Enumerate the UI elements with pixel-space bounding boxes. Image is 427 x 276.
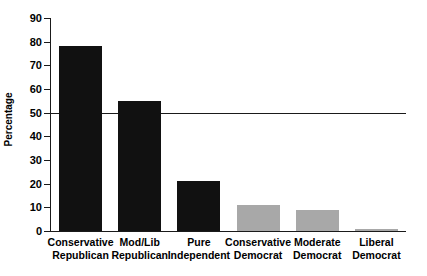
x-axis-category-label-line: Democrat [339,249,414,262]
plot-area [51,18,406,231]
y-axis-tick-label: 50 [30,107,42,118]
y-axis-tick-label: 20 [30,178,42,189]
y-axis-tick-label: 0 [36,226,42,237]
y-axis-tick-mark [44,207,50,208]
y-axis-title: Percentage [0,0,18,238]
fifty-percent-reference-line [51,113,406,114]
y-axis-tick-labels: 0102030405060708090 [18,0,46,238]
y-axis-tick-mark [44,231,50,232]
y-axis-tick-label: 80 [30,36,42,47]
y-axis-tick-mark [44,18,50,19]
y-axis-title-text: Percentage [4,92,15,146]
x-axis-category-label: LiberalDemocrat [339,236,414,262]
bar [237,205,280,231]
y-axis-tick-mark [44,136,50,137]
y-axis-tick-mark [44,113,50,114]
y-axis-tick-mark [44,42,50,43]
y-axis-tick-mark [44,89,50,90]
x-axis-line [50,231,406,232]
bar [177,181,220,231]
bar [59,46,102,231]
bar [118,101,161,231]
y-axis-tick-label: 70 [30,60,42,71]
y-axis-tick-label: 90 [30,13,42,24]
y-axis-tick-label: 60 [30,84,42,95]
x-axis-category-labels: ConservativeRepublicanMod/LibRepublicanP… [51,236,406,276]
y-axis-tick-label: 30 [30,155,42,166]
x-axis-category-label-line: Liberal [339,236,414,249]
bar [296,210,339,231]
y-axis-tick-label: 40 [30,131,42,142]
y-axis-tick-mark [44,65,50,66]
y-axis-tick-label: 10 [30,202,42,213]
y-axis-tick-mark [44,184,50,185]
bar [355,229,398,231]
y-axis-tick-mark [44,160,50,161]
bar-chart: Percentage 0102030405060708090 Conservat… [0,0,427,276]
